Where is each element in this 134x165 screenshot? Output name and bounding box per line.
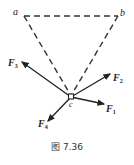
- figure-caption: 图 7.36: [51, 142, 83, 152]
- force-label-f2: F2: [112, 72, 123, 84]
- point-label-b: b: [120, 7, 125, 18]
- force-arrow-f1: [71, 97, 104, 104]
- force-label-f4: F4: [37, 118, 48, 130]
- force-diagram: a b c F1 F2 F3 F4 图 7.36: [0, 0, 134, 165]
- point-label-c: c: [69, 100, 73, 109]
- force-arrow-f4: [48, 97, 71, 121]
- force-label-f3: F3: [7, 57, 18, 69]
- point-label-a: a: [13, 6, 18, 17]
- force-arrow-f3: [22, 62, 71, 97]
- node-c: [69, 94, 74, 99]
- dashed-triangle: [24, 16, 118, 94]
- force-label-f1: F1: [105, 103, 116, 115]
- line-ac: [24, 16, 70, 94]
